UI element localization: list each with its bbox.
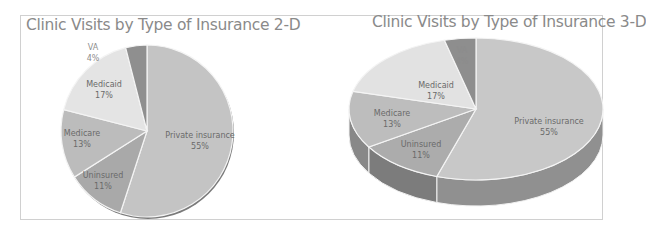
label-medicare-pct: 13% <box>73 140 91 149</box>
label-va-pct-3d: 4% <box>456 57 469 66</box>
label-medicare-pct-3d: 13% <box>383 120 401 129</box>
label-private-insurance-pct: 55% <box>191 142 209 151</box>
label-medicaid-3d: Medicaid <box>418 81 454 90</box>
label-medicaid-pct: 17% <box>95 91 113 100</box>
label-uninsured-pct-3d: 11% <box>412 151 430 160</box>
label-medicare-3d: Medicare <box>374 109 411 118</box>
label-medicaid-pct-3d: 17% <box>427 92 445 101</box>
label-uninsured-pct: 11% <box>94 182 112 191</box>
label-medicaid: Medicaid <box>86 80 122 89</box>
label-va: VA <box>88 43 99 52</box>
label-uninsured: Uninsured <box>83 171 124 180</box>
label-va-pct: 4% <box>87 54 100 63</box>
label-medicare: Medicare <box>64 129 101 138</box>
label-va-3d: VA <box>457 46 468 55</box>
label-private-insurance-3d: Private insurance <box>514 117 584 126</box>
label-private-insurance: Private insurance <box>165 131 235 140</box>
label-uninsured-3d: Uninsured <box>401 140 442 149</box>
label-private-insurance-pct-3d: 55% <box>540 128 558 137</box>
